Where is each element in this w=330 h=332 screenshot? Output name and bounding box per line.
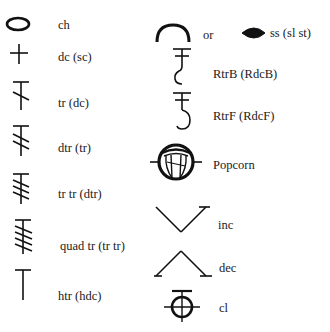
label-or: or: [203, 28, 213, 42]
treble-one-slash-icon: [10, 80, 34, 112]
label-tr-tr-dtr: tr tr (dtr): [58, 187, 102, 201]
raised-back-stitch-icon: [170, 46, 196, 88]
label-cl: cl: [219, 301, 228, 315]
label-popcorn: Popcorn: [213, 158, 255, 172]
popcorn-icon: [148, 140, 204, 184]
label-quad-tr: quad tr (tr tr): [60, 239, 125, 253]
slip-stitch-arc-icon: [154, 22, 194, 44]
label-dc-sc: dc (sc): [58, 50, 92, 64]
slip-stitch-filled-oval-icon: [240, 24, 268, 42]
label-dtr-tr: dtr (tr): [58, 141, 91, 155]
decrease-caret-icon: [154, 248, 214, 280]
label-rtrf: RtrF (RdcF): [213, 109, 274, 123]
label-dec: dec: [219, 261, 236, 275]
label-ch: ch: [58, 18, 70, 32]
label-inc: inc: [218, 218, 233, 232]
label-tr-dc: tr (dc): [58, 96, 89, 110]
increase-v-icon: [154, 204, 210, 236]
raised-front-stitch-icon: [170, 90, 196, 134]
triple-treble-three-slashes-icon: [10, 172, 34, 206]
cluster-circle-icon: [164, 288, 200, 324]
half-treble-plain-t-icon: [12, 268, 36, 302]
quad-treble-four-slashes-icon: [12, 218, 36, 256]
label-ss-sl-st: ss (sl st): [270, 26, 311, 40]
plus-cross-icon: [8, 42, 32, 66]
label-rtrb: RtrB (RdcB): [213, 67, 277, 81]
double-treble-two-slashes-icon: [10, 124, 34, 158]
label-htr-hdc: htr (hdc): [58, 289, 101, 303]
chain-oval-icon: [4, 14, 34, 34]
